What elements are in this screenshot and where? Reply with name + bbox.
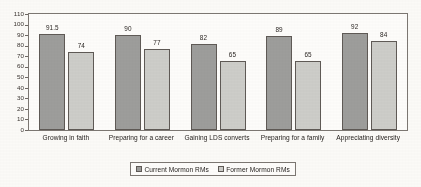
category-label: Growing in faith [28,133,104,142]
bar-1: 65 [220,61,246,130]
bar-value-label: 65 [304,51,311,58]
bar-0: 82 [191,44,217,130]
bar-value-label: 65 [229,51,236,58]
x-axis-category-labels: Growing in faithPreparing for a careerGa… [28,133,408,147]
y-axis-tick-label: 70 [17,53,24,59]
bar-1: 84 [371,41,397,130]
y-axis-tick-label: 90 [17,32,24,38]
y-axis: 1101009080706050403020100 [2,0,24,187]
legend-item-current-mormon-rms: Current Mormon RMs [136,166,209,173]
y-axis-tick-label: 60 [17,63,24,69]
bar-group: 8265 [191,14,246,130]
category-label: Appreciating diversity [330,133,406,142]
series-0-swatch-icon [136,166,142,172]
y-axis-tick-label: 50 [17,74,24,80]
bar-value-label: 92 [351,23,358,30]
bar-series-container: 91.5749077826589659284 [29,14,407,130]
legend-item-former-mormon-rms: Former Mormon RMs [218,166,290,173]
bar-1: 77 [144,49,170,130]
bar-0: 92 [342,33,368,130]
legend-label-series-0: Current Mormon RMs [145,166,209,173]
bar-value-label: 91.5 [46,24,59,31]
bar-group: 8965 [266,14,321,130]
y-axis-tick-label: 30 [17,95,24,101]
y-axis-tick-label: 100 [13,21,24,27]
y-axis-tick-label: 80 [17,42,24,48]
y-axis-tick-label: 0 [20,127,24,133]
bar-1: 74 [68,52,94,130]
bar-value-label: 89 [275,26,282,33]
bar-0: 91.5 [39,34,65,130]
bar-value-label: 84 [380,31,387,38]
legend-label-series-1: Former Mormon RMs [226,166,290,173]
bar-group: 9077 [115,14,170,130]
y-axis-tick-label: 40 [17,85,24,91]
bar-value-label: 74 [78,42,85,49]
bar-value-label: 77 [153,39,160,46]
bar-0: 89 [266,36,292,130]
y-axis-tick-label: 10 [17,116,24,122]
bar-0: 90 [115,35,141,130]
y-axis-tick-label: 20 [17,106,24,112]
category-label: Preparing for a family [255,133,331,142]
bar-value-label: 90 [124,25,131,32]
bar-group: 9284 [342,14,397,130]
bar-1: 65 [295,61,321,130]
chart-legend: Current Mormon RMs Former Mormon RMs [130,162,296,176]
category-label: Preparing for a career [104,133,180,142]
series-1-swatch-icon [218,166,224,172]
category-label: Gaining LDS converts [179,133,255,142]
bar-value-label: 82 [200,34,207,41]
bar-group: 91.574 [39,14,94,130]
y-axis-tick-label: 110 [14,11,24,17]
bar-chart-figure: 1101009080706050403020100 91.57490778265… [0,0,421,187]
